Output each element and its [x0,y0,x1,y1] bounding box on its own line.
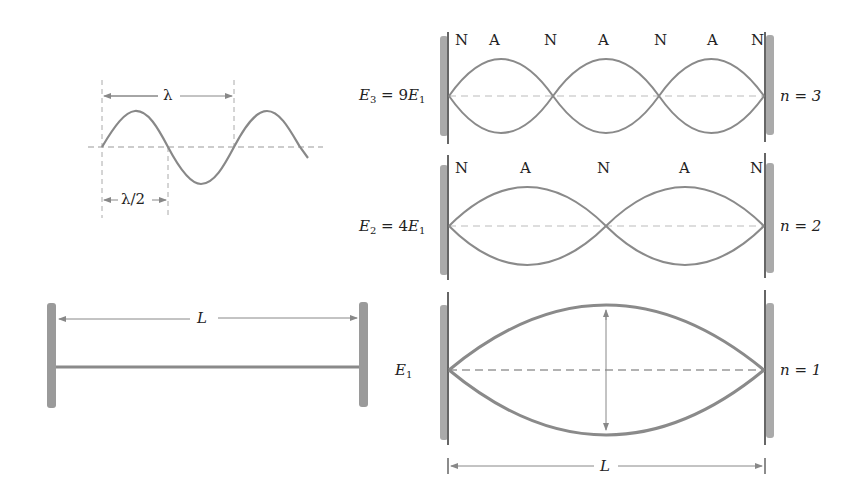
mode-number-n1: n = 1 [780,363,821,378]
node-label: N [751,33,764,48]
energy-label-n1: E1 [395,363,412,380]
antinode-label: A [489,33,500,48]
node-label: N [544,33,557,48]
antinode-label: A [520,161,531,176]
bottom-length-label: L [600,459,610,474]
antinode-label: A [598,33,609,48]
antinode-label: A [707,33,718,48]
standing-waves-diagram: λ λ/2 L N A N A N A N E3 = 9E1 n = 3 N A… [0,0,867,501]
node-label: N [750,161,763,176]
node-label: N [455,33,468,48]
node-label: N [597,161,610,176]
antinode-label: A [679,161,690,176]
fixed-string-panel [47,302,368,408]
diagram-graphics [0,0,867,501]
node-label: N [654,33,667,48]
mode-number-n2: n = 2 [780,219,821,234]
node-label: N [455,161,468,176]
mode-n1 [440,290,774,474]
string-length-label: L [197,311,207,326]
half-lambda-label: λ/2 [121,192,145,207]
lambda-label: λ [163,88,173,103]
energy-label-n3: E3 = 9E1 [359,88,425,105]
energy-label-n2: E2 = 4E1 [359,219,425,236]
mode-number-n3: n = 3 [780,89,821,104]
